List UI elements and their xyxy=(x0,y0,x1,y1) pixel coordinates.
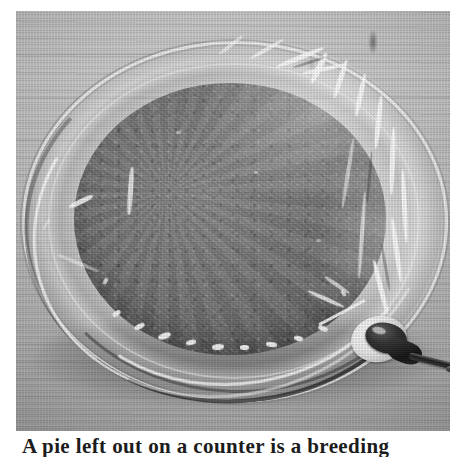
figure-caption-area: A pie left out on a counter is a breedin… xyxy=(0,437,461,457)
figure-caption-text: A pie left out on a counter is a breedin… xyxy=(22,437,452,457)
wood-knot-mark xyxy=(368,29,378,55)
scanned-page: A pie left out on a counter is a breedin… xyxy=(0,0,461,457)
figure-photograph xyxy=(16,11,450,431)
